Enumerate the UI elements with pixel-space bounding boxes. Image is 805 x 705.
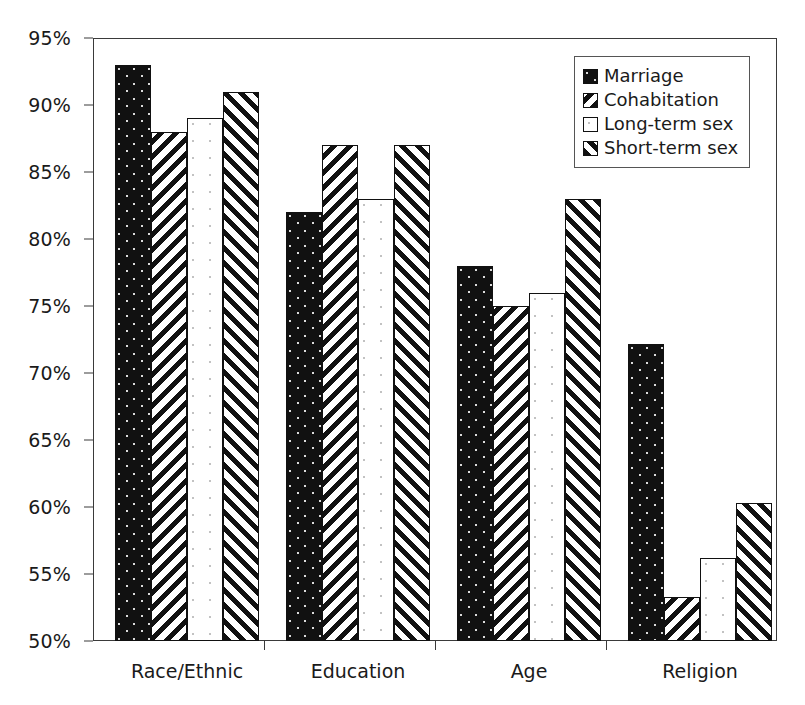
chart-legend: MarriageCohabitationLong-term sexShort-t… bbox=[574, 56, 750, 168]
legend-swatch-icon bbox=[583, 141, 598, 156]
y-axis-tick-label: 50% bbox=[28, 630, 71, 652]
bar bbox=[358, 199, 394, 641]
bar bbox=[457, 266, 493, 641]
x-axis-tick-label: Education bbox=[311, 660, 406, 682]
y-axis-tick-label: 90% bbox=[28, 94, 71, 116]
y-axis-tick-label: 75% bbox=[28, 295, 71, 317]
y-axis-tick-label: 70% bbox=[28, 362, 71, 384]
bar bbox=[700, 558, 736, 641]
bar bbox=[151, 132, 187, 641]
bar bbox=[322, 145, 358, 641]
legend-item: Marriage bbox=[583, 64, 738, 88]
y-axis-tick-label: 60% bbox=[28, 496, 71, 518]
y-axis-tick-label: 80% bbox=[28, 228, 71, 250]
bar bbox=[286, 212, 322, 641]
bar bbox=[493, 306, 529, 641]
x-axis-tick-mark bbox=[606, 641, 607, 650]
x-axis-tick-label: Religion bbox=[662, 660, 738, 682]
bar bbox=[736, 503, 772, 641]
bar bbox=[394, 145, 430, 641]
legend-swatch-icon bbox=[583, 69, 598, 84]
y-axis-tick-mark bbox=[84, 641, 93, 642]
y-axis-tick-mark bbox=[84, 440, 93, 441]
legend-item: Long-term sex bbox=[583, 112, 738, 136]
x-axis-tick-mark bbox=[264, 641, 265, 650]
bar bbox=[628, 344, 664, 641]
bar bbox=[223, 92, 259, 641]
bar-chart: 50%55%60%65%70%75%80%85%90%95% Race/Ethn… bbox=[0, 0, 805, 705]
y-axis-tick-label: 55% bbox=[28, 563, 71, 585]
x-axis-tick-mark bbox=[435, 641, 436, 650]
legend-item-label: Long-term sex bbox=[604, 115, 733, 133]
legend-swatch-icon bbox=[583, 93, 598, 108]
bar bbox=[115, 65, 151, 641]
y-axis-tick-label: 85% bbox=[28, 161, 71, 183]
y-axis-tick-mark bbox=[84, 507, 93, 508]
y-axis-tick-mark bbox=[84, 574, 93, 575]
x-axis-tick-label: Age bbox=[511, 660, 548, 682]
y-axis-tick-mark bbox=[84, 306, 93, 307]
legend-item-label: Cohabitation bbox=[604, 91, 719, 109]
bar bbox=[565, 199, 601, 641]
bar bbox=[187, 118, 223, 641]
y-axis-tick-label: 95% bbox=[28, 27, 71, 49]
x-axis-tick-label: Race/Ethnic bbox=[131, 660, 243, 682]
bar bbox=[529, 293, 565, 641]
legend-item-label: Marriage bbox=[604, 67, 684, 85]
legend-swatch-icon bbox=[583, 117, 598, 132]
y-axis-tick-mark bbox=[84, 105, 93, 106]
legend-item-label: Short-term sex bbox=[604, 139, 738, 157]
y-axis-tick-mark bbox=[84, 239, 93, 240]
y-axis: 50%55%60%65%70%75%80%85%90%95% bbox=[0, 0, 93, 705]
y-axis-tick-mark bbox=[84, 172, 93, 173]
y-axis-tick-mark bbox=[84, 373, 93, 374]
bar bbox=[664, 597, 700, 641]
y-axis-tick-mark bbox=[84, 38, 93, 39]
x-axis: Race/EthnicEducationAgeReligion bbox=[93, 641, 777, 705]
legend-item: Short-term sex bbox=[583, 136, 738, 160]
legend-item: Cohabitation bbox=[583, 88, 738, 112]
y-axis-tick-label: 65% bbox=[28, 429, 71, 451]
